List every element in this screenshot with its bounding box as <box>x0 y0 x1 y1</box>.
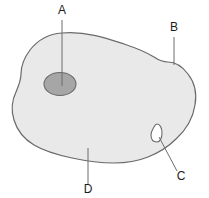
label-b: B <box>170 20 178 34</box>
nucleus-shape <box>44 73 76 96</box>
cell-body-shape <box>12 33 195 163</box>
label-c: C <box>177 169 186 183</box>
cell-diagram-figure: A B C D <box>0 0 209 198</box>
label-a: A <box>58 3 66 17</box>
label-d: D <box>84 182 93 196</box>
